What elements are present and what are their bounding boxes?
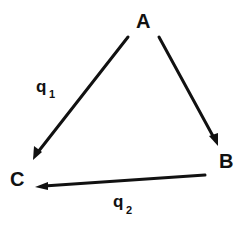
edge-b-to-c-line — [44, 175, 205, 186]
edge-label-q2-main: q — [113, 192, 123, 211]
edge-label-q2-subscript: 2 — [126, 204, 132, 216]
edge-a-to-c — [33, 37, 128, 160]
diagram-canvas: A B C q 1 q 2 — [0, 0, 244, 226]
edge-label-q2: q 2 — [113, 192, 132, 216]
edge-label-q1: q 1 — [36, 77, 55, 100]
node-label-a: A — [136, 10, 150, 32]
node-label-b: B — [219, 150, 233, 172]
edge-a-to-b — [159, 37, 218, 146]
edge-b-to-c — [35, 175, 205, 190]
edge-a-to-b-line — [159, 37, 214, 138]
arrowhead-icon — [35, 182, 48, 190]
node-label-c: C — [10, 168, 24, 190]
edge-label-q1-subscript: 1 — [49, 88, 55, 100]
edge-label-q1-main: q — [36, 77, 46, 96]
arrowhead-icon — [209, 133, 218, 146]
